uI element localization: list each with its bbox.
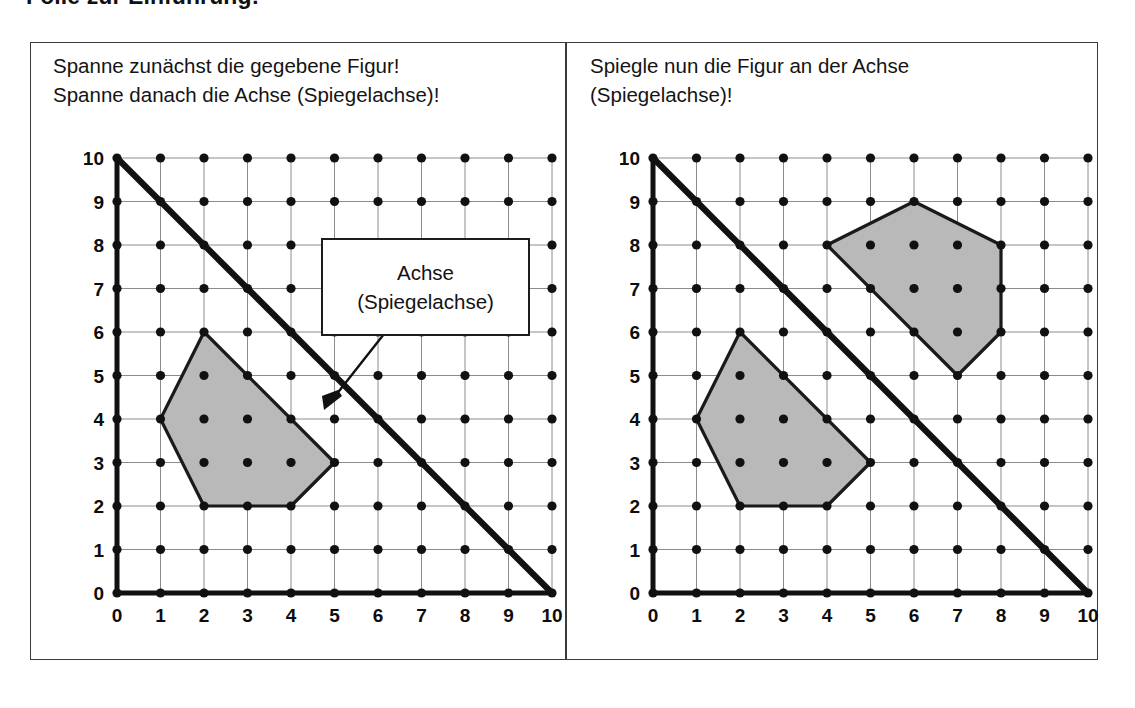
lattice-dot xyxy=(953,545,962,554)
lattice-dot xyxy=(504,414,513,423)
lattice-dot xyxy=(866,197,875,206)
y-axis-tick-label: 2 xyxy=(629,496,640,517)
y-axis-tick-label: 10 xyxy=(620,148,640,169)
lattice-dot xyxy=(735,197,744,206)
lattice-dot xyxy=(1083,371,1092,380)
lattice-dot xyxy=(460,545,469,554)
y-axis-tick-label: 5 xyxy=(93,366,104,387)
lattice-dot xyxy=(779,414,788,423)
lattice-dot xyxy=(1040,414,1049,423)
y-axis-tick-label: 6 xyxy=(93,322,104,343)
lattice-dot xyxy=(1083,414,1092,423)
lattice-dot xyxy=(243,501,252,510)
y-axis-tick-label: 2 xyxy=(93,496,104,517)
lattice-dot xyxy=(460,414,469,423)
coordinate-grid-left: 012345678910012345678910 xyxy=(84,148,564,668)
lattice-dot xyxy=(822,501,831,510)
lattice-dot xyxy=(1083,458,1092,467)
lattice-dot xyxy=(286,545,295,554)
lattice-dot xyxy=(330,197,339,206)
lattice-dot xyxy=(156,458,165,467)
lattice-dot xyxy=(373,371,382,380)
lattice-dot xyxy=(417,414,426,423)
lattice-dot xyxy=(909,153,918,162)
lattice-dot xyxy=(460,458,469,467)
lattice-dot xyxy=(735,414,744,423)
lattice-dot xyxy=(330,501,339,510)
x-axis-tick-label: 7 xyxy=(416,605,427,626)
lattice-dot xyxy=(866,458,875,467)
lattice-dot xyxy=(866,153,875,162)
lattice-dot xyxy=(547,501,556,510)
x-axis-tick-label: 6 xyxy=(373,605,384,626)
lattice-dot xyxy=(504,153,513,162)
lattice-dot xyxy=(460,371,469,380)
lattice-dot xyxy=(866,327,875,336)
lattice-dot xyxy=(286,284,295,293)
lattice-dot xyxy=(1040,240,1049,249)
lattice-dot xyxy=(547,414,556,423)
lattice-dot xyxy=(330,153,339,162)
lattice-dot xyxy=(373,197,382,206)
x-axis-tick-label: 7 xyxy=(952,605,963,626)
lattice-dot xyxy=(735,501,744,510)
lattice-dot xyxy=(373,545,382,554)
lattice-dot xyxy=(953,501,962,510)
lattice-dot xyxy=(460,153,469,162)
lattice-dot xyxy=(996,458,1005,467)
y-axis-tick-label: 0 xyxy=(629,583,640,604)
x-axis-tick-label: 1 xyxy=(691,605,702,626)
lattice-dot xyxy=(547,458,556,467)
lattice-dot xyxy=(996,153,1005,162)
lattice-dot xyxy=(909,240,918,249)
lattice-dot xyxy=(822,458,831,467)
lattice-dot xyxy=(156,153,165,162)
lattice-dot xyxy=(1040,284,1049,293)
lattice-dot xyxy=(156,240,165,249)
callout-line-2: (Spiegelachse) xyxy=(357,287,494,316)
lattice-dot xyxy=(909,327,918,336)
lattice-dot xyxy=(547,197,556,206)
callout-line-1: Achse xyxy=(397,258,454,287)
plot-left-grid: 012345678910012345678910 xyxy=(84,148,564,668)
lattice-dot xyxy=(460,197,469,206)
lattice-dot xyxy=(1083,545,1092,554)
lattice-dot xyxy=(996,284,1005,293)
lattice-dot xyxy=(156,501,165,510)
lattice-dot xyxy=(692,371,701,380)
lattice-dot xyxy=(417,371,426,380)
lattice-dot xyxy=(286,501,295,510)
lattice-dot xyxy=(547,284,556,293)
lattice-dot xyxy=(866,240,875,249)
lattice-dot xyxy=(243,458,252,467)
lattice-dot xyxy=(692,458,701,467)
lattice-dot xyxy=(866,414,875,423)
lattice-dot xyxy=(996,545,1005,554)
lattice-dot xyxy=(547,153,556,162)
y-axis-tick-label: 8 xyxy=(629,235,640,256)
lattice-dot xyxy=(822,284,831,293)
x-axis-tick-label: 0 xyxy=(648,605,659,626)
lattice-dot xyxy=(199,284,208,293)
lattice-dot xyxy=(822,240,831,249)
lattice-dot xyxy=(1083,284,1092,293)
y-axis-tick-label: 4 xyxy=(629,409,640,430)
lattice-dot xyxy=(1083,197,1092,206)
lattice-dot xyxy=(286,371,295,380)
lattice-dot xyxy=(779,545,788,554)
y-axis-tick-label: 6 xyxy=(629,322,640,343)
y-axis-tick-label: 3 xyxy=(93,453,104,474)
lattice-dot xyxy=(417,545,426,554)
lattice-dot xyxy=(1040,153,1049,162)
lattice-dot xyxy=(504,501,513,510)
y-axis-tick-label: 5 xyxy=(629,366,640,387)
lattice-dot xyxy=(1040,458,1049,467)
y-axis-tick-label: 8 xyxy=(93,235,104,256)
lattice-dot xyxy=(735,153,744,162)
lattice-dot xyxy=(692,501,701,510)
y-axis-tick-label: 4 xyxy=(93,409,104,430)
lattice-dot xyxy=(996,240,1005,249)
lattice-dot xyxy=(243,240,252,249)
lattice-dot xyxy=(199,327,208,336)
lattice-dot xyxy=(779,327,788,336)
